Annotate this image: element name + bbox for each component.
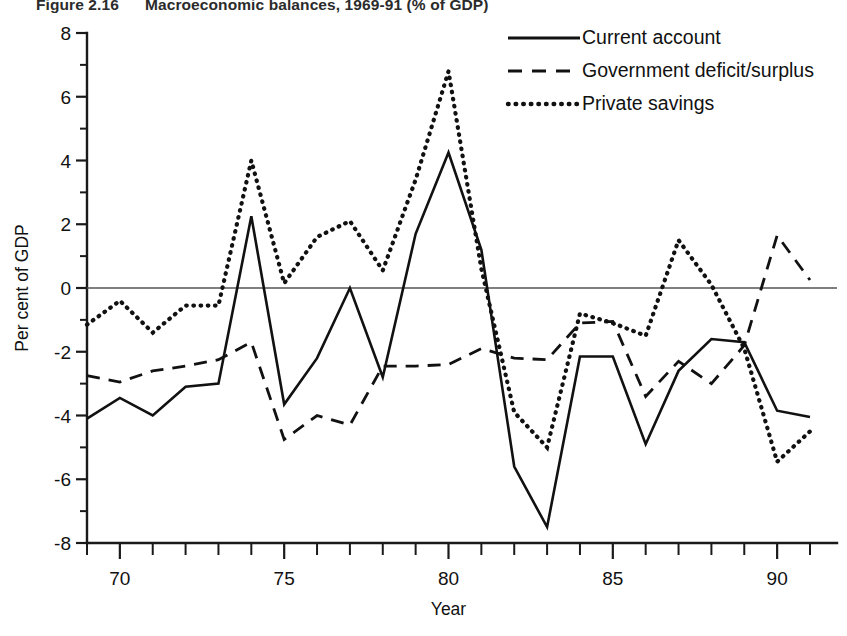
y-tick-label: 6 (60, 87, 71, 108)
x-tick-label: 90 (767, 568, 788, 589)
series-line-dotted (87, 71, 810, 461)
series-line-solid (87, 153, 810, 528)
line-chart: 86420-2-4-6-87075808590YearPer cent of G… (0, 0, 847, 636)
x-tick-label: 75 (274, 568, 295, 589)
y-tick-label: -6 (54, 469, 71, 490)
y-tick-label: 0 (60, 278, 71, 299)
y-tick-label: -8 (54, 533, 71, 554)
y-tick-label: -4 (54, 406, 71, 427)
x-tick-label: 70 (109, 568, 130, 589)
y-tick-label: -2 (54, 342, 71, 363)
x-tick-label: 85 (602, 568, 623, 589)
figure-container: Figure 2.16Macroeconomic balances, 1969-… (0, 0, 847, 636)
series-line-dashed (87, 235, 810, 439)
legend-label: Current account (582, 26, 721, 48)
chart-plot-area: 86420-2-4-6-87075808590YearPer cent of G… (0, 0, 847, 636)
legend-label: Government deficit/surplus (582, 59, 814, 81)
y-tick-label: 8 (60, 23, 71, 44)
legend-label: Private savings (582, 92, 714, 114)
x-tick-label: 80 (438, 568, 459, 589)
y-axis-title: Per cent of GDP (12, 224, 32, 351)
x-axis-title: Year (431, 599, 467, 619)
y-tick-label: 4 (60, 151, 71, 172)
y-tick-label: 2 (60, 214, 71, 235)
